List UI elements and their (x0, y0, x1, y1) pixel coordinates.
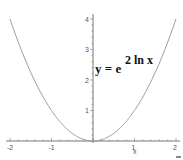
x-tick-label: -1 (49, 144, 55, 151)
corner-mark (176, 156, 181, 158)
equation-annotation: y = e 2 ln x (95, 53, 153, 76)
plot: -2-112 1234 x y = e 2 ln x (0, 0, 183, 160)
x-axis-label: x (133, 148, 137, 155)
y-tick-label: 4 (85, 16, 89, 23)
y-axis: 1234 (85, 14, 93, 143)
y-tick-label: 2 (85, 77, 89, 84)
equation-exponent: 2 ln x (125, 53, 153, 67)
x-tick-label: -2 (7, 144, 13, 151)
x-tick-label: 2 (173, 144, 177, 151)
y-tick-label: 3 (85, 46, 89, 53)
equation-base: y = e (95, 61, 121, 76)
y-tick-label: 1 (85, 107, 89, 114)
